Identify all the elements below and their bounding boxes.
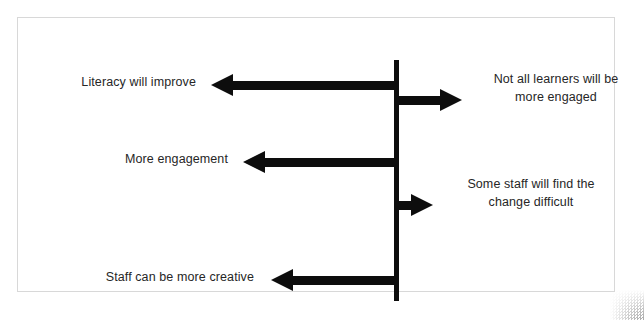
force-field-diagram-screenshot: Literacy will improve More engagement St…	[0, 0, 644, 320]
label-staff-can-be-more-creative: Staff can be more creative	[48, 268, 254, 286]
label-not-all-learners-will-be-more-engaged: Not all learners will be more engaged	[470, 70, 642, 106]
label-some-staff-will-find-the-change-difficult: Some staff will find the change difficul…	[442, 175, 620, 211]
label-literacy-will-improve: Literacy will improve	[36, 73, 196, 91]
label-more-engagement: More engagement	[58, 150, 228, 168]
diagram-canvas: Literacy will improve More engagement St…	[17, 17, 615, 292]
